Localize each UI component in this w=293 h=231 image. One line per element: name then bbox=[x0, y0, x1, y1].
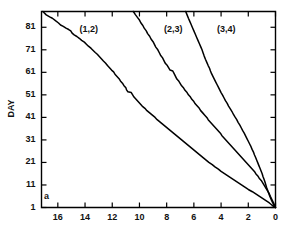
y-tick-label: 21 bbox=[6, 157, 36, 166]
panel-letter: a bbox=[44, 192, 49, 201]
chart-figure: 161412108642011121314151617181 (1,2)(2,3… bbox=[0, 0, 293, 231]
curve-label-34: (3,4) bbox=[217, 25, 236, 34]
x-tick-label: 14 bbox=[71, 213, 99, 222]
x-tick-label: 4 bbox=[207, 213, 235, 222]
plot-frame bbox=[42, 12, 276, 208]
y-tick-label: 71 bbox=[6, 45, 36, 54]
series-lines bbox=[43, 12, 276, 208]
y-tick-label: 81 bbox=[6, 22, 36, 31]
y-axis-title: DAY bbox=[7, 89, 16, 129]
x-tick-label: 8 bbox=[153, 213, 181, 222]
y-tick-label: 31 bbox=[6, 135, 36, 144]
axis-ticks bbox=[42, 12, 276, 208]
x-tick-label: 2 bbox=[234, 213, 262, 222]
x-tick-label: 6 bbox=[180, 213, 208, 222]
x-tick-label: 10 bbox=[125, 213, 153, 222]
y-tick-label: 1 bbox=[6, 203, 36, 212]
series-line-23 bbox=[133, 12, 275, 208]
curve-label-23: (2,3) bbox=[164, 25, 183, 34]
x-tick-label: 16 bbox=[44, 213, 72, 222]
series-line-12 bbox=[43, 12, 276, 208]
x-tick-label: 12 bbox=[98, 213, 126, 222]
plot-border bbox=[42, 12, 276, 208]
curve-label-12: (1,2) bbox=[80, 25, 99, 34]
y-tick-label: 61 bbox=[6, 67, 36, 76]
x-tick-label: 0 bbox=[262, 213, 290, 222]
y-tick-label: 11 bbox=[6, 180, 36, 189]
